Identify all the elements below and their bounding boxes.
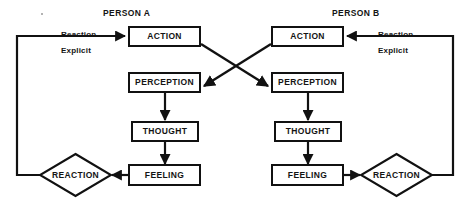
person-b-inbound-label-line2: Explicit [378, 46, 408, 55]
person-a-inbound-label-line1: Reaction [61, 30, 96, 39]
person-b-action-label: ACTION [290, 32, 325, 41]
edge-b-action-to-a-perception [204, 44, 271, 86]
scan-speck [41, 13, 43, 15]
person-b-action-node[interactable]: ACTION [271, 26, 344, 47]
edge-a-action-to-b-perception [201, 44, 268, 86]
person-a-reaction-label: REACTION [52, 171, 99, 180]
person-b-perception-label: PERCEPTION [278, 78, 337, 87]
person-b-feeling-label: FEELING [288, 171, 327, 180]
person-a-thought-node[interactable]: THOUGHT [131, 121, 199, 142]
person-a-title: PERSON A [103, 8, 150, 18]
communication-cycle-diagram: PERSON A Reaction Explicit ACTION PERCEP… [0, 0, 471, 211]
person-a-action-label: ACTION [147, 32, 182, 41]
person-a-thought-label: THOUGHT [143, 127, 187, 136]
person-b-thought-node[interactable]: THOUGHT [274, 121, 342, 142]
person-b-title: PERSON B [332, 8, 380, 18]
person-b-feeling-node[interactable]: FEELING [271, 164, 344, 186]
person-a-perception-node[interactable]: PERCEPTION [128, 72, 201, 93]
person-a-inbound-label-line2: Explicit [61, 46, 91, 55]
person-b-reaction-node[interactable]: REACTION [359, 152, 434, 198]
person-a-perception-label: PERCEPTION [135, 78, 194, 87]
person-a-feeling-node[interactable]: FEELING [128, 164, 201, 186]
person-b-inbound-label-line1: Reaction [378, 30, 413, 39]
person-b-reaction-label: REACTION [373, 171, 420, 180]
person-a-action-node[interactable]: ACTION [128, 26, 201, 47]
person-a-feeling-label: FEELING [145, 171, 184, 180]
person-a-reaction-node[interactable]: REACTION [38, 152, 113, 198]
person-b-perception-node[interactable]: PERCEPTION [271, 72, 344, 93]
person-b-thought-label: THOUGHT [286, 127, 330, 136]
